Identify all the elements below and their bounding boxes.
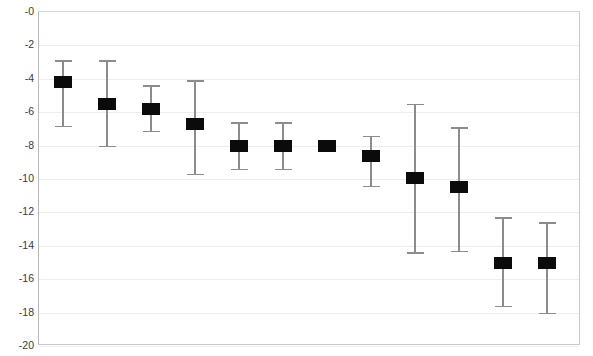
y-axis-tick-label: -0 [2,5,34,17]
data-marker [538,257,556,269]
error-bar-cap-upper [231,122,248,124]
error-bar-cap-upper [407,104,424,106]
gridline [39,346,579,347]
gridline [39,212,579,213]
plot-area [38,11,580,345]
gridline [39,146,579,147]
data-marker [54,76,72,88]
y-axis-tick-label: -16 [2,272,34,284]
gridline [39,246,579,247]
error-bar-cap-lower [495,306,512,308]
gridline [39,112,579,113]
data-marker [450,181,468,193]
gridline [39,179,579,180]
data-marker [230,140,248,152]
error-bar-cap-lower [407,252,424,254]
error-bar-cap-lower [55,126,72,128]
error-bar-cap-lower [99,146,116,148]
error-bar-cap-lower [143,131,160,133]
y-axis-tick-label: -14 [2,239,34,251]
data-marker [406,172,424,184]
data-marker [274,140,292,152]
gridline [39,45,579,46]
gridline [39,279,579,280]
error-bar-cap-lower [275,169,292,171]
gridline [39,313,579,314]
error-bar-cap-upper [363,136,380,138]
error-bar-cap-upper [99,60,116,62]
error-bar-cap-lower [231,169,248,171]
data-marker [362,150,380,162]
error-bar-cap-upper [539,222,556,224]
error-bar-cap-lower [363,186,380,188]
gridline [39,79,579,80]
error-bar-cap-lower [451,251,468,253]
error-bar-cap-upper [495,217,512,219]
data-marker [186,118,204,130]
y-axis-tick-label: -2 [2,38,34,50]
data-marker [318,140,336,152]
error-bar-cap-upper [187,80,204,82]
error-bar-line [62,60,64,125]
data-marker [494,257,512,269]
y-axis-tick-label: -8 [2,139,34,151]
error-bar-cap-upper [275,122,292,124]
error-bar-cap-upper [143,85,160,87]
y-axis-tick-label: -10 [2,172,34,184]
error-bar-cap-upper [451,127,468,129]
data-marker [142,103,160,115]
y-axis-tick-label: -20 [2,339,34,351]
error-bar-cap-lower [539,313,556,315]
y-axis-tick-label: -6 [2,105,34,117]
error-bar-cap-upper [55,60,72,62]
y-axis-tick-label: -18 [2,306,34,318]
error-bar-cap-lower [187,174,204,176]
y-axis-tick-labels: -0-2-4-6-8-10-12-14-16-18-20 [0,0,34,356]
y-axis-tick-label: -4 [2,72,34,84]
y-axis-tick-label: -12 [2,205,34,217]
data-marker [98,98,116,110]
error-bar-chart: -0-2-4-6-8-10-12-14-16-18-20 [0,0,593,356]
